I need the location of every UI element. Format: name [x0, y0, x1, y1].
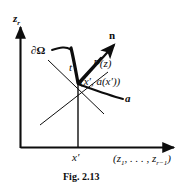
normal-vector-label: n [109, 30, 115, 41]
point-coordinates-label: (x′, a(x′)) [80, 76, 120, 87]
boundary-label: ∂Ω [31, 45, 45, 56]
figure-container: zr ∂Ω n t P(z) (x′, a(x′)) a x′ (z1, . .… [0, 0, 195, 189]
vertical-axis-label: zr [13, 13, 20, 27]
figure-caption: Fig. 2.13 [63, 172, 99, 182]
tangent-vector-label: t [69, 62, 72, 73]
function-graph-label: a [125, 93, 131, 104]
point-function-label: P(z) [93, 58, 111, 69]
boundary-leader-line [52, 47, 71, 50]
horizontal-axis-label: (z1, . . . , zr−1) [113, 153, 171, 167]
x-prime-tick-label: x′ [72, 152, 79, 163]
